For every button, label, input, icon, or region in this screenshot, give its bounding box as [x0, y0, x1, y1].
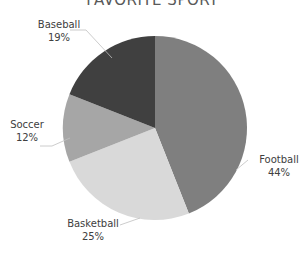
label-football: Football 44% [253, 153, 305, 179]
label-baseball-pct: 19% [26, 31, 92, 44]
label-football-name: Football [253, 153, 305, 166]
label-basketball: Basketball 25% [58, 217, 128, 243]
label-soccer-name: Soccer [2, 118, 52, 131]
label-basketball-name: Basketball [58, 217, 128, 230]
label-baseball-name: Baseball [26, 18, 92, 31]
label-soccer: Soccer 12% [2, 118, 52, 144]
label-baseball: Baseball 19% [26, 18, 92, 44]
label-basketball-pct: 25% [58, 230, 128, 243]
label-soccer-pct: 12% [2, 131, 52, 144]
label-football-pct: 44% [253, 166, 305, 179]
